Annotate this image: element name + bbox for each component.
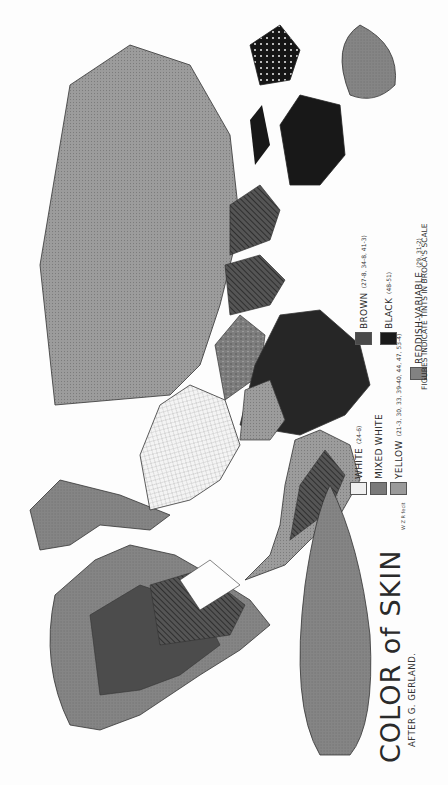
map-title: COLOR of SKIN xyxy=(375,550,406,763)
legend-item-white: WHITE (24-6) xyxy=(350,426,367,495)
antarctica-east xyxy=(342,25,396,98)
legend-item-brown: BROWN (27-8, 34-8, 41-3) xyxy=(355,235,372,345)
legend-item-mixed-white: MIXED WHITE xyxy=(370,414,387,495)
india xyxy=(225,255,285,315)
pacific-islands xyxy=(250,25,300,85)
map-subtitle: AFTER G. GERLAND. xyxy=(407,653,417,747)
southeast-asia xyxy=(230,185,280,255)
legend-item-yellow: YELLOW (21-3, 30, 33, 39-40, 44, 47, 53-… xyxy=(390,334,407,495)
mixed-white-swatch xyxy=(370,482,387,495)
black-swatch xyxy=(380,332,397,345)
map-canvas: COLOR of SKIN AFTER G. GERLAND. W Z R fe… xyxy=(0,0,448,785)
white-swatch xyxy=(350,482,367,495)
yellow-swatch xyxy=(390,482,407,495)
scale-note: FIGURES INDICATE TINTS IN BROCA'S SCALE xyxy=(420,224,429,390)
map-credit: W Z R fecit xyxy=(400,502,406,530)
australia xyxy=(280,95,345,185)
europe xyxy=(140,385,240,510)
legend-item-black: BLACK (48-51) xyxy=(380,272,397,345)
asia xyxy=(40,45,240,405)
north-america xyxy=(50,545,270,730)
brown-swatch xyxy=(355,332,372,345)
new-guinea xyxy=(250,105,270,165)
